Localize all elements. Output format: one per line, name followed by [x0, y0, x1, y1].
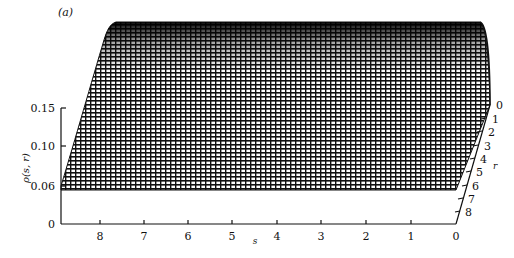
svg-text:8: 8	[465, 206, 472, 219]
svg-text:0: 0	[496, 99, 503, 112]
svg-text:7: 7	[468, 193, 475, 206]
surface-plot: (a) 0 0.06 0.10 0.15 ρ(s, r) 8 7 6 5 4 3…	[0, 0, 514, 258]
svg-text:0: 0	[453, 230, 460, 243]
svg-text:5: 5	[229, 230, 236, 243]
panel-label: (a)	[58, 6, 73, 19]
z-axis	[61, 108, 66, 224]
svg-text:0.06: 0.06	[31, 180, 56, 193]
svg-text:1: 1	[408, 230, 415, 243]
svg-text:8: 8	[97, 230, 104, 243]
svg-text:4: 4	[274, 230, 281, 243]
svg-text:0: 0	[48, 218, 55, 231]
svg-text:0.15: 0.15	[31, 102, 56, 115]
svg-text:2: 2	[488, 126, 495, 139]
s-axis	[61, 220, 456, 224]
z-axis-label: ρ(s, r)	[20, 153, 31, 184]
svg-text:5: 5	[476, 166, 483, 179]
z-tick-labels: 0 0.06 0.10 0.15	[31, 102, 56, 231]
svg-text:2: 2	[363, 230, 370, 243]
s-tick-labels: 8 7 6 5 4 3 2 1 0	[97, 230, 460, 243]
svg-text:6: 6	[472, 180, 479, 193]
svg-text:4: 4	[480, 153, 487, 166]
mesh-surface	[61, 22, 490, 190]
r-axis-label: r	[493, 161, 498, 171]
svg-text:0.10: 0.10	[31, 140, 56, 153]
s-axis-label: s	[253, 236, 258, 246]
svg-text:3: 3	[318, 230, 325, 243]
svg-text:1: 1	[492, 113, 499, 126]
svg-text:6: 6	[185, 230, 192, 243]
svg-text:3: 3	[484, 140, 491, 153]
svg-text:7: 7	[141, 230, 148, 243]
